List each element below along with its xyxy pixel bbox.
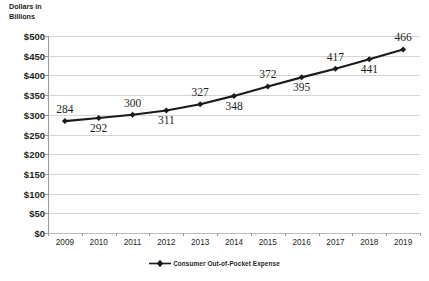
- data-label: 311: [143, 114, 189, 126]
- data-label: 327: [177, 86, 223, 98]
- line-chart: Dollars in Billions $500$450$400$350$300…: [0, 0, 429, 281]
- data-point-marker: [197, 101, 203, 107]
- data-label: 395: [279, 81, 325, 93]
- data-label: 300: [110, 97, 156, 109]
- data-label: 466: [380, 31, 426, 43]
- data-label: 284: [42, 103, 88, 115]
- data-point-marker: [163, 107, 169, 113]
- data-label: 348: [211, 100, 257, 112]
- legend-label-consumer-out-of-pocket-expense: Consumer Out-of-Pocket Expense: [173, 260, 280, 267]
- data-label: 417: [312, 51, 358, 63]
- data-point-marker: [96, 115, 102, 121]
- data-point-marker: [299, 74, 305, 80]
- data-point-marker: [62, 118, 68, 124]
- data-point-marker: [265, 83, 271, 89]
- data-point-marker: [231, 93, 237, 99]
- data-point-marker: [400, 46, 406, 52]
- chart-legend: Consumer Out-of-Pocket Expense: [0, 259, 429, 268]
- data-point-marker: [130, 112, 136, 118]
- data-label: 292: [76, 122, 122, 134]
- series-line-consumer-out-of-pocket-expense: [0, 0, 429, 281]
- data-label: 372: [245, 68, 291, 80]
- data-point-marker: [332, 66, 338, 72]
- data-point-marker: [366, 56, 372, 62]
- data-label: 441: [346, 63, 392, 75]
- legend-diamond-marker-icon: [149, 259, 171, 268]
